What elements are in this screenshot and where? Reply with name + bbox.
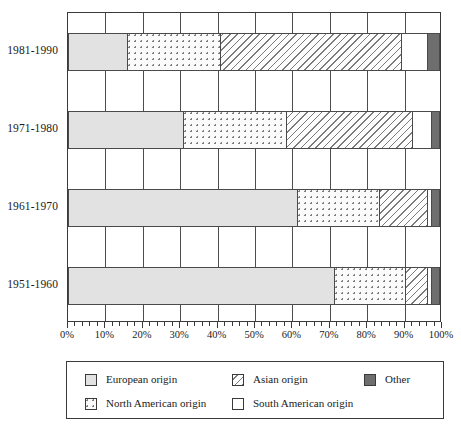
bar-segment-other bbox=[432, 190, 439, 226]
x-tick-major-60 bbox=[291, 322, 292, 328]
legend-label-north-american-origin: North American origin bbox=[106, 398, 206, 409]
x-tick-label-30%: 30% bbox=[170, 329, 189, 340]
x-tick-label-0%: 0% bbox=[60, 329, 74, 340]
legend-item-asian-origin[interactable]: Asian origin bbox=[232, 368, 308, 391]
x-tick-major-20 bbox=[142, 322, 143, 328]
x-tick-major-30 bbox=[179, 322, 180, 328]
plot-area bbox=[67, 12, 441, 322]
x-tick-minor bbox=[127, 322, 128, 326]
legend-row-1: European origin Asian origin Other bbox=[67, 368, 443, 391]
x-tick-minor bbox=[224, 322, 225, 326]
x-tick-major-0 bbox=[67, 322, 68, 328]
x-tick-label-60%: 60% bbox=[282, 329, 301, 340]
legend-row-2: North American origin South American ori… bbox=[67, 392, 443, 415]
bar-segment-northamerican bbox=[298, 190, 379, 226]
x-tick-minor bbox=[434, 322, 435, 326]
x-tick-major-40 bbox=[217, 322, 218, 328]
legend-item-south-american-origin[interactable]: South American origin bbox=[232, 392, 353, 415]
x-tick-minor bbox=[381, 322, 382, 326]
x-tick-minor bbox=[411, 322, 412, 326]
x-tick-minor bbox=[97, 322, 98, 326]
x-tick-minor bbox=[187, 322, 188, 326]
x-tick-major-80 bbox=[366, 322, 367, 328]
x-tick-minor bbox=[89, 322, 90, 326]
bar-segment-european bbox=[69, 112, 184, 148]
x-tick-minor bbox=[194, 322, 195, 326]
bar-segment-asian bbox=[380, 190, 428, 226]
bar-row bbox=[68, 111, 440, 149]
legend-item-north-american-origin[interactable]: North American origin bbox=[85, 392, 206, 415]
x-tick-label-40%: 40% bbox=[207, 329, 226, 340]
x-tick-label-100%: 100% bbox=[429, 329, 454, 340]
legend-label-south-american-origin: South American origin bbox=[253, 398, 353, 409]
x-tick-minor bbox=[426, 322, 427, 326]
x-tick-minor bbox=[321, 322, 322, 326]
category-label-1961-1970: 1961-1970 bbox=[7, 200, 58, 212]
x-tick-minor bbox=[164, 322, 165, 326]
bar-segment-northamerican bbox=[184, 112, 288, 148]
x-tick-major-10 bbox=[104, 322, 105, 328]
x-tick-major-70 bbox=[329, 322, 330, 328]
bars-layer bbox=[68, 13, 440, 321]
category-label-1981-1990: 1981-1990 bbox=[7, 44, 58, 56]
x-tick-minor bbox=[374, 322, 375, 326]
x-tick-minor bbox=[232, 322, 233, 326]
legend-swatch-north-american-icon bbox=[85, 398, 97, 410]
x-tick-minor bbox=[299, 322, 300, 326]
x-tick-minor bbox=[284, 322, 285, 326]
x-tick-minor bbox=[239, 322, 240, 326]
x-tick-label-10%: 10% bbox=[95, 329, 114, 340]
x-tick-minor bbox=[389, 322, 390, 326]
x-tick-minor bbox=[149, 322, 150, 326]
bar-segment-european bbox=[69, 190, 298, 226]
x-tick-minor bbox=[261, 322, 262, 326]
bar-row bbox=[68, 267, 440, 305]
legend-label-european-origin: European origin bbox=[106, 374, 177, 385]
x-tick-label-90%: 90% bbox=[394, 329, 413, 340]
category-label-1951-1960: 1951-1960 bbox=[7, 278, 58, 290]
x-tick-minor bbox=[172, 322, 173, 326]
bar-segment-northamerican bbox=[335, 268, 405, 304]
bar-segment-southamerican bbox=[402, 34, 428, 70]
x-tick-major-100 bbox=[441, 322, 442, 328]
category-label-1971-1980: 1971-1980 bbox=[7, 122, 58, 134]
x-tick-minor bbox=[74, 322, 75, 326]
x-tick-major-90 bbox=[404, 322, 405, 328]
legend-label-other: Other bbox=[385, 374, 410, 385]
bar-segment-southamerican bbox=[413, 112, 432, 148]
x-tick-label-20%: 20% bbox=[132, 329, 151, 340]
x-tick-major-50 bbox=[254, 322, 255, 328]
x-tick-minor bbox=[134, 322, 135, 326]
x-tick-minor bbox=[209, 322, 210, 326]
x-tick-minor bbox=[396, 322, 397, 326]
x-tick-minor bbox=[314, 322, 315, 326]
legend-swatch-south-american-icon bbox=[232, 398, 244, 410]
bar-segment-asian bbox=[221, 34, 402, 70]
x-tick-minor bbox=[119, 322, 120, 326]
x-tick-minor bbox=[336, 322, 337, 326]
x-tick-minor bbox=[202, 322, 203, 326]
x-tick-minor bbox=[269, 322, 270, 326]
x-tick-minor bbox=[344, 322, 345, 326]
x-tick-minor bbox=[359, 322, 360, 326]
x-tick-label-70%: 70% bbox=[319, 329, 338, 340]
bar-segment-northamerican bbox=[128, 34, 221, 70]
x-tick-minor bbox=[419, 322, 420, 326]
legend-item-other[interactable]: Other bbox=[364, 368, 410, 391]
bar-segment-european bbox=[69, 34, 128, 70]
x-tick-minor bbox=[157, 322, 158, 326]
category-axis-labels: 1981-1990 1971-1980 1961-1970 1951-1960 bbox=[0, 12, 62, 322]
legend-label-asian-origin: Asian origin bbox=[253, 374, 308, 385]
x-tick-minor bbox=[306, 322, 307, 326]
legend: European origin Asian origin Other North… bbox=[66, 361, 444, 419]
x-tick-label-80%: 80% bbox=[357, 329, 376, 340]
legend-item-european-origin[interactable]: European origin bbox=[85, 368, 177, 391]
x-tick-minor bbox=[276, 322, 277, 326]
legend-swatch-european-icon bbox=[85, 374, 97, 386]
bar-segment-other bbox=[432, 112, 439, 148]
stacked-bar-chart: 1981-1990 1971-1980 1961-1970 1951-1960 … bbox=[0, 0, 461, 426]
x-axis: 0%10%20%30%40%50%60%70%80%90%100% bbox=[67, 322, 441, 348]
x-tick-minor bbox=[112, 322, 113, 326]
x-tick-minor bbox=[351, 322, 352, 326]
legend-swatch-other-icon bbox=[364, 374, 376, 386]
